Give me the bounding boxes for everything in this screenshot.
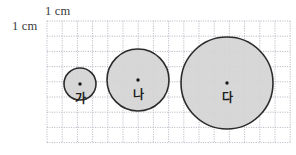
circle-label-가: 가	[75, 89, 86, 106]
figure-canvas: 1 cm 1 cm 가나다	[0, 0, 296, 155]
circles-layer	[0, 0, 296, 155]
circle-label-나: 나	[133, 85, 144, 102]
center-dot-가	[78, 82, 81, 85]
center-dot-나	[136, 78, 139, 81]
circle-label-다: 다	[222, 88, 233, 105]
center-dot-다	[225, 81, 228, 84]
